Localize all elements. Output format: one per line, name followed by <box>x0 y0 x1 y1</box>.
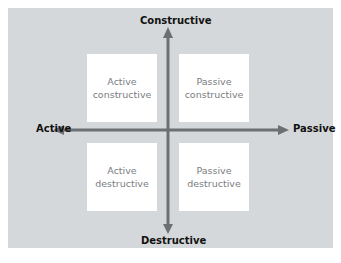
arrow-up-icon <box>163 27 173 38</box>
quadrant-label-line2: destructive <box>95 177 149 190</box>
quadrant-label-line1: Active <box>93 75 152 88</box>
quadrant-active-destructive: Activedestructive <box>87 143 157 211</box>
arrow-down-icon <box>163 224 173 234</box>
quadrant-passive-constructive: Passiveconstructive <box>179 54 249 122</box>
axis-label-active: Active <box>36 123 71 134</box>
quadrant-label-line2: constructive <box>185 88 244 101</box>
axis-label-constructive: Constructive <box>140 15 212 26</box>
quadrant-label-line1: Active <box>95 164 149 177</box>
axis-label-passive: Passive <box>293 123 335 134</box>
quadrant-active-constructive: Activeconstructive <box>87 54 157 122</box>
quadrant-label-line1: Passive <box>187 164 241 177</box>
quadrant-label-line2: destructive <box>187 177 241 190</box>
quadrant-passive-destructive: Passivedestructive <box>179 143 249 211</box>
quadrant-label-line1: Passive <box>185 75 244 88</box>
quadrant-label-line2: constructive <box>93 88 152 101</box>
axis-label-destructive: Destructive <box>141 235 206 246</box>
arrow-right-icon <box>278 125 289 135</box>
